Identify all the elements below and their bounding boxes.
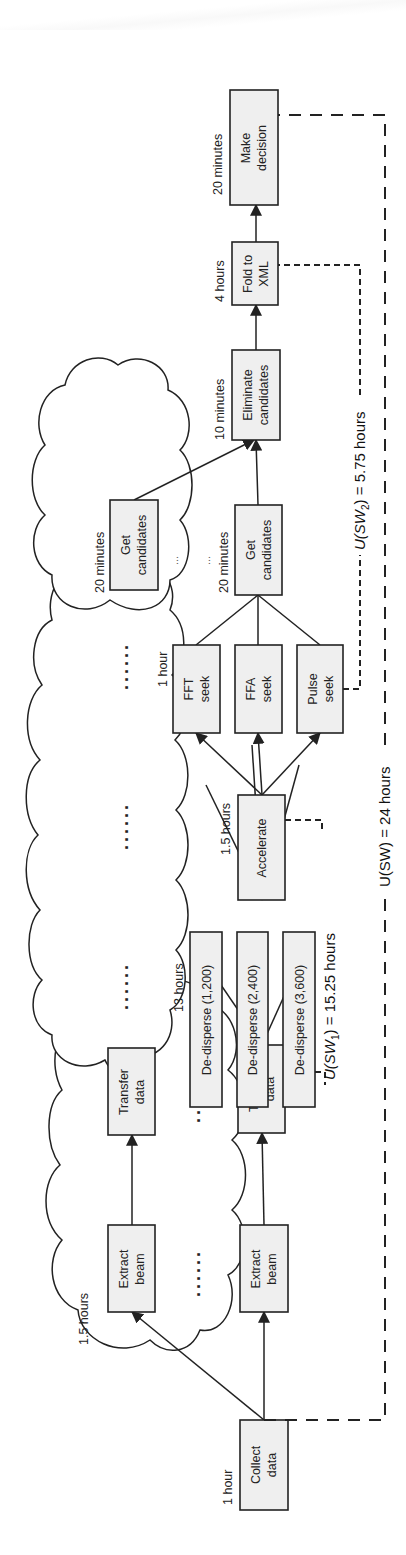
edge: [196, 595, 258, 645]
seek-time-label: 1 hour: [156, 652, 170, 687]
sw2-bracket: [278, 265, 360, 395]
node-extract-beam-bottom: Extract beam: [240, 1225, 288, 1312]
svg-text:Accelerate: Accelerate: [255, 818, 269, 877]
ellipsis: ......: [112, 962, 132, 1010]
svg-text:10 minutes: 10 minutes: [213, 379, 227, 440]
svg-text:Collect: Collect: [249, 1445, 263, 1484]
svg-text:4 hours: 4 hours: [213, 260, 227, 302]
svg-text:candidates: candidates: [260, 520, 274, 580]
node-eliminate-candidates: Eliminate candidates 10 minutes: [213, 350, 280, 440]
svg-text:Get: Get: [244, 539, 258, 560]
svg-text:XML: XML: [257, 261, 271, 287]
sw-label: U(SW) = 24 hours: [376, 767, 393, 887]
svg-text:decision: decision: [255, 125, 269, 171]
svg-text:beam: beam: [133, 1253, 147, 1284]
node-get-candidates-main: Get candidates 20 minutes: [217, 505, 282, 595]
svg-text:data: data: [133, 1080, 147, 1104]
sw1-label: U(SW1) = 15.25 hours: [321, 933, 341, 1080]
svg-text:1.5 hours: 1.5 hours: [219, 803, 233, 855]
sw2-label: U(SW2) = 5.75 hours: [351, 411, 371, 550]
svg-text:20 minutes: 20 minutes: [217, 532, 231, 593]
sw1-bracket: [285, 820, 322, 830]
node-extract-beam-top: Extract beam: [108, 1225, 155, 1312]
node-collect-data: Collect data 1 hour: [221, 1420, 288, 1510]
node-dedisperse-3600: De-disperse (3,600): [283, 932, 315, 1107]
node-ffa-seek: FFA seek: [235, 645, 282, 733]
svg-text:Get: Get: [119, 534, 133, 555]
svg-text:Make: Make: [239, 133, 253, 164]
node-pulse-seek: Pulse seek: [297, 645, 343, 733]
node-make-decision: Make decision 20 minutes: [211, 90, 278, 205]
edge: [262, 1133, 264, 1225]
svg-text:Pulse: Pulse: [306, 673, 320, 704]
svg-text:candidates: candidates: [135, 515, 149, 575]
svg-text:Extract: Extract: [249, 1249, 263, 1288]
edge: [262, 733, 320, 795]
extract-time-label: 1.5 hours: [77, 1293, 91, 1345]
svg-text:Eliminate: Eliminate: [241, 369, 255, 420]
svg-text:De-disperse (3,600): De-disperse (3,600): [293, 965, 307, 1075]
svg-text:Fold to: Fold to: [241, 255, 255, 293]
edge: [258, 595, 320, 645]
svg-text:beam: beam: [265, 1253, 279, 1284]
node-transfer-data-top: Transfer data: [108, 1048, 155, 1135]
workflow-diagram: Collect data 1 hour Extract beam 1.5 hou…: [0, 0, 406, 1555]
svg-text:seek: seek: [260, 675, 274, 702]
sw2-bracket: [343, 555, 360, 689]
node-fold-to-xml: Fold to XML 4 hours: [213, 242, 278, 305]
ellipsis: ......: [112, 802, 132, 850]
svg-text:20 minutes: 20 minutes: [211, 134, 225, 195]
node-fft-seek: FFT seek: [173, 645, 220, 733]
node-accelerate: Accelerate 1.5 hours: [219, 795, 285, 900]
node-dedisperse-1200: De-disperse (1,200): [190, 932, 222, 1107]
svg-text:20 minutes: 20 minutes: [93, 532, 107, 593]
ellipsis: ...: [168, 556, 180, 565]
svg-text:FFA: FFA: [244, 677, 258, 701]
ellipsis: ......: [184, 1249, 204, 1297]
edge: [256, 440, 258, 505]
ellipsis: ......: [112, 642, 132, 690]
svg-text:FFT: FFT: [182, 677, 196, 700]
svg-text:De-disperse (2,400): De-disperse (2,400): [246, 965, 260, 1075]
svg-text:De-disperse (1,200): De-disperse (1,200): [200, 965, 214, 1075]
dedisperse-time-label: 13 hours: [172, 963, 186, 1012]
svg-text:data: data: [265, 1453, 279, 1477]
svg-text:seek: seek: [198, 675, 212, 702]
ellipsis: ...: [200, 556, 212, 565]
svg-text:Extract: Extract: [117, 1249, 131, 1288]
svg-text:1 hour: 1 hour: [221, 1470, 235, 1505]
svg-text:seek: seek: [322, 675, 336, 702]
svg-text:candidates: candidates: [257, 365, 271, 425]
edge: [258, 733, 262, 795]
svg-text:Transfer: Transfer: [117, 1069, 131, 1115]
node-dedisperse-2400: De-disperse (2,400): [237, 932, 268, 1107]
cloud-middle: [26, 554, 188, 1072]
